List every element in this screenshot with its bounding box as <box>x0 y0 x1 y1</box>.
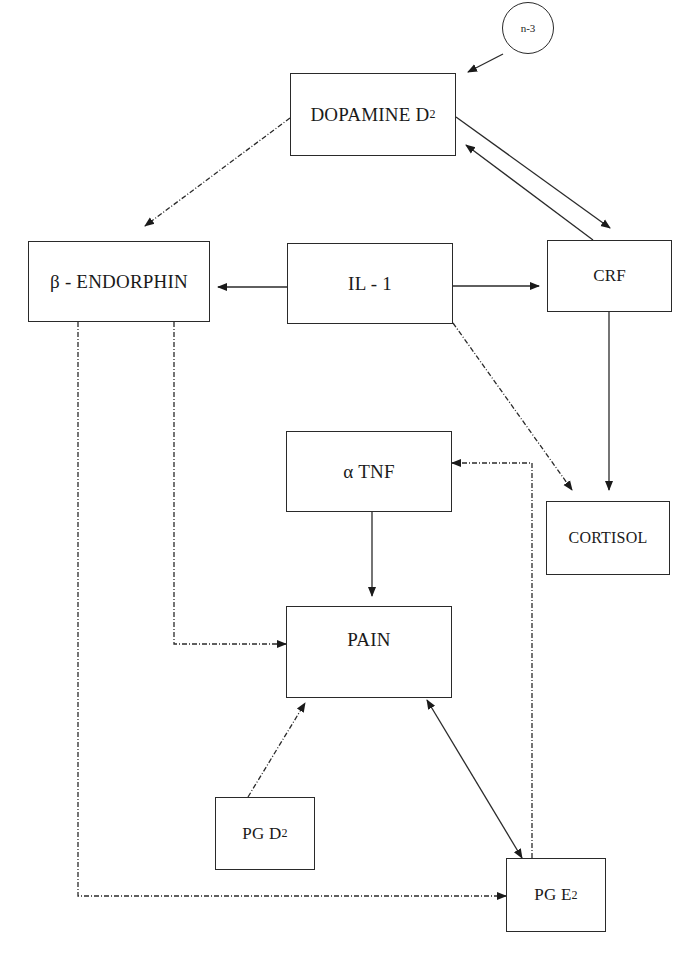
node-il1-label: IL - 1 <box>348 273 392 295</box>
node-dopamine-d2: DOPAMINE D2 <box>290 73 456 156</box>
edge-pge2-tnf <box>452 463 532 858</box>
node-beta-endorphin: β - ENDORPHIN <box>28 241 210 322</box>
edge-pgd2-pain <box>248 703 305 797</box>
node-crf-label: CRF <box>593 266 626 286</box>
edge-dopamine-endorphin <box>145 118 290 226</box>
node-pg-e2: PG E2 <box>506 858 606 932</box>
node-cortisol: CORTISOL <box>546 501 670 575</box>
edge-n3-dopamine <box>468 54 503 72</box>
node-endorphin-label: β - ENDORPHIN <box>50 271 188 293</box>
node-il-1: IL - 1 <box>287 243 453 324</box>
node-n3: n-3 <box>502 2 554 54</box>
node-n3-label: n-3 <box>521 22 536 34</box>
node-dopamine-subscript: 2 <box>429 107 435 122</box>
node-cortisol-label: CORTISOL <box>569 529 648 547</box>
node-pain-label: PAIN <box>347 629 390 651</box>
edge-endorphin-pain <box>174 322 286 644</box>
node-dopamine-label: DOPAMINE D <box>310 104 429 126</box>
edge-pain-pge2 <box>427 700 522 858</box>
node-pge2-label: PG E <box>534 885 571 905</box>
node-pg-d2: PG D2 <box>215 797 315 870</box>
node-pgd2-subscript: 2 <box>281 826 287 841</box>
edge-crf-dopamine <box>466 145 593 240</box>
node-pge2-subscript: 2 <box>571 888 577 903</box>
node-pain: PAIN <box>286 606 452 698</box>
node-tnf-label: α TNF <box>343 461 395 483</box>
node-crf: CRF <box>547 240 672 312</box>
edge-il1-cortisol <box>453 323 572 490</box>
node-alpha-tnf: α TNF <box>286 431 452 512</box>
node-pgd2-label: PG D <box>242 824 281 844</box>
edge-dopamine-crf <box>456 117 610 228</box>
